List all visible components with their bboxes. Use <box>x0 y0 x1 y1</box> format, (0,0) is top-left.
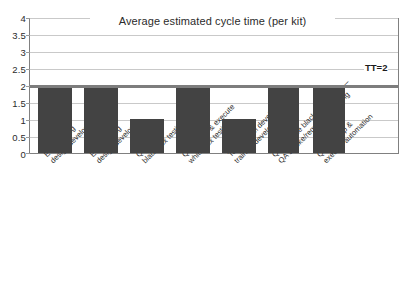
y-axis-tick-2-5: 2.5 <box>0 65 26 75</box>
bar-6[interactable] <box>268 85 299 153</box>
bar-3[interactable] <box>130 119 164 153</box>
y-axis-tick-3: 3 <box>0 48 26 58</box>
y-axis-tick-4: 4 <box>0 14 26 24</box>
takt-time-line <box>30 85 398 88</box>
takt-time-label: TT=2 <box>364 63 388 73</box>
y-axis-tick-1-5: 1.5 <box>0 99 26 109</box>
x-axis-labels: Engineering design/develop Engineering d… <box>0 154 409 291</box>
chart-title: Average estimated cycle time (per kit) <box>90 14 335 28</box>
y-axis-tick-3-5: 3.5 <box>0 31 26 41</box>
chart-container: 4 3.5 3 2.5 2 1.5 1 0.5 0 <box>0 0 409 291</box>
plot-area <box>29 18 399 154</box>
y-axis-tick-0-5: 0.5 <box>0 133 26 143</box>
bar-4[interactable] <box>176 85 210 153</box>
bar-7[interactable] <box>313 85 345 153</box>
y-axis-tick-2: 2 <box>0 82 26 92</box>
y-axis-tick-1: 1 <box>0 116 26 126</box>
bar-2[interactable] <box>84 85 118 153</box>
bar-1[interactable] <box>38 85 72 153</box>
bar-5[interactable] <box>222 119 256 153</box>
